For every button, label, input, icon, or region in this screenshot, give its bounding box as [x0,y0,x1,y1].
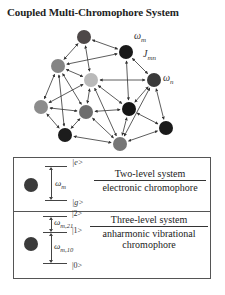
coupling-edge-D-J [95,88,117,136]
omega-subscript: m,10 [60,246,73,253]
legend-box: ωm |e> |g> Two-level system electronic c… [13,157,211,279]
arrow-down-icon [49,260,53,263]
coupling-edge-E-K [156,89,164,120]
transition-arrow [51,168,52,199]
three-level-caption: Three-level system anharmonic vibrationa… [90,214,208,250]
ground-state-ket: |g> [72,198,84,207]
level-2-ket: |2> [72,209,82,218]
three-level-title: Three-level system [90,214,208,227]
coupling-edge-F-I [47,114,59,128]
coupling-edge-D-G [87,89,89,103]
chromophore-node-D [84,73,98,87]
coupling-edge-G-H [95,110,120,112]
lower-level-line [45,200,67,201]
coupling-edge-D-F [49,84,83,102]
level-1-ket: |1> [72,226,82,235]
chromophore-network [0,0,225,160]
three-level-description-line1: anharmonic vibrational [90,227,208,239]
coupling-edge-I-J [74,136,111,142]
level-0-line [43,263,67,264]
chromophore-node-H [122,102,136,116]
excited-state-ket: |e> [72,158,83,167]
coupling-edge-G-I [71,119,80,129]
chromophore-node-B [119,45,133,59]
chromophore-node-J [113,137,127,151]
omega-m-label: ωm [134,30,146,44]
omega-symbol: ω [163,72,170,83]
coupling-edge-A-C [64,44,78,60]
chromophore-node-F [34,100,48,114]
two-level-description: electronic chromophore [94,181,206,193]
coupling-edge-F-G [50,108,77,111]
arrow-up-icon [49,167,53,170]
coupling-edge-C-B [67,54,117,64]
coupling-edge-H-K [137,113,158,124]
chromophore-node-C [51,59,65,73]
level-0-ket: |0> [72,261,82,270]
coupling-edge-K-J [129,131,158,141]
coupling-edge-C-I [59,75,64,126]
arrow-up-icon [49,233,53,236]
three-level-row: ωm,21 ωm,10 |2> |1> |0> Three-level syst… [14,211,210,279]
coupling-edge-D-H [98,85,122,103]
chromophore-node-A [77,30,91,44]
coupling-edge-A-B [92,40,117,49]
coupling-jmn-label: Jmn [143,48,156,62]
omega-m-label: ωm [55,178,66,190]
chromophore-node-I [58,128,72,142]
omega-m10-label: ωm,10 [54,241,73,253]
coupling-edge-C-G [63,74,82,105]
three-level-description-line2: chromophore [90,239,208,250]
omega-n-label: ωn [163,72,174,86]
omega-subscript: n [170,78,174,86]
chromophore-node-G [79,105,93,119]
chromophore-dot-icon [24,178,38,192]
coupling-edge-G-J [93,118,114,138]
coupling-edge-C-D [66,70,82,77]
chromophore-dot-icon [24,237,38,251]
omega-subscript: m [61,183,66,190]
omega-m21-label: ωm,21 [54,217,73,229]
coupling-edge-B-H [126,61,128,100]
level-1-line [43,232,67,233]
transition-arrow-10 [51,234,52,262]
arrow-down-icon [49,197,53,200]
omega-symbol: ω [134,30,141,41]
two-level-title: Two-level system [94,168,206,181]
arrow-down-icon [49,229,53,232]
coupling-edge-C-F [44,74,54,98]
two-level-row: ωm |e> |g> Two-level system electronic c… [14,158,210,212]
omega-subscript: m [141,36,146,44]
coupling-subscript: mn [147,54,156,62]
two-level-caption: Two-level system electronic chromophore [94,168,206,193]
chromophore-node-E [147,73,161,87]
chromophore-node-K [159,121,173,135]
arrow-up-icon [49,217,53,220]
coupling-edge-A-D [85,46,89,71]
